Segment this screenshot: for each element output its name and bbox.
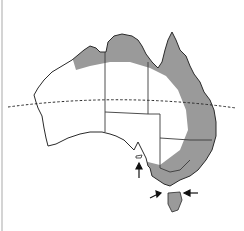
australia-map	[0, 0, 244, 231]
shaded-region	[70, 25, 225, 195]
arrow-right-icon	[150, 191, 161, 198]
arrow-up-icon	[136, 163, 142, 178]
arrow-left-icon	[184, 190, 198, 196]
kangaroo-island	[136, 155, 142, 158]
tasmania	[168, 192, 182, 212]
